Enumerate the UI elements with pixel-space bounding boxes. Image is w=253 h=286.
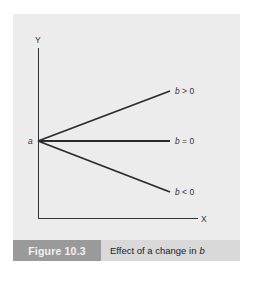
label-b-negative: b < 0 <box>175 187 194 197</box>
line-b-positive <box>38 91 170 141</box>
figure-caption: Figure 10.3 Effect of a change inb <box>13 240 240 261</box>
figure-number: Figure 10.3 <box>13 240 101 261</box>
caption-main: Effect of a change in <box>110 245 196 256</box>
x-axis-label: X <box>201 214 207 224</box>
intercept-label: a <box>28 136 33 146</box>
line-b-negative <box>38 141 170 192</box>
y-axis-label: Y <box>35 35 41 45</box>
caption-text: Effect of a change inb <box>101 240 240 261</box>
label-b-zero: b = 0 <box>175 136 194 146</box>
caption-var: b <box>199 245 204 256</box>
label-b-positive: b > 0 <box>175 86 194 96</box>
